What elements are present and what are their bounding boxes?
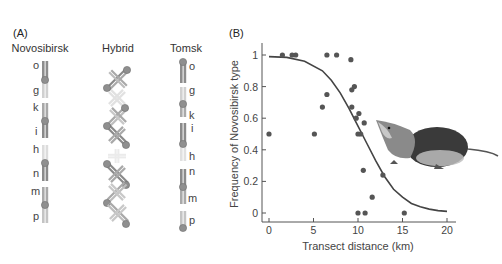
data-point: [312, 131, 317, 136]
data-point: [348, 57, 353, 62]
y-tick-labels: 1 0.8 0.6 0.4 0.2 0: [243, 49, 258, 219]
svg-text:0: 0: [266, 224, 272, 236]
svg-text:0: 0: [252, 207, 258, 219]
data-point: [380, 173, 385, 178]
data-point: [358, 131, 363, 136]
svg-text:0.4: 0.4: [243, 144, 258, 156]
data-point: [362, 120, 367, 125]
x-axis-title: Transect distance (km): [302, 240, 413, 252]
svg-text:0.8: 0.8: [243, 81, 258, 93]
data-point: [356, 111, 361, 116]
data-point: [324, 92, 329, 97]
data-point: [320, 105, 325, 110]
data-point: [361, 168, 366, 173]
data-point: [266, 131, 271, 136]
data-point: [354, 116, 359, 121]
data-point: [293, 52, 298, 57]
data-point: [355, 210, 360, 215]
svg-text:15: 15: [397, 224, 409, 236]
x-ticks: [269, 218, 447, 222]
svg-text:20: 20: [441, 224, 453, 236]
shrew-illustration: [376, 120, 498, 169]
data-point: [334, 52, 339, 57]
data-point: [324, 52, 329, 57]
svg-text:0.2: 0.2: [243, 175, 258, 187]
data-point: [349, 105, 354, 110]
svg-text:1: 1: [252, 49, 258, 61]
svg-text:0.6: 0.6: [243, 112, 258, 124]
x-tick-labels: 0 5 10 15 20: [266, 224, 453, 236]
data-point: [363, 210, 368, 215]
y-ticks: [262, 55, 266, 213]
svg-text:5: 5: [311, 224, 317, 236]
y-axis-title: Frequency of Novosibirsk type: [228, 60, 240, 208]
cline-chart: 1 0.8 0.6 0.4 0.2 0 0 5 10 15 20 Transec…: [0, 0, 502, 264]
data-point: [280, 52, 285, 57]
data-point: [402, 210, 407, 215]
svg-text:10: 10: [352, 224, 364, 236]
data-point: [370, 195, 375, 200]
data-point: [349, 87, 354, 92]
